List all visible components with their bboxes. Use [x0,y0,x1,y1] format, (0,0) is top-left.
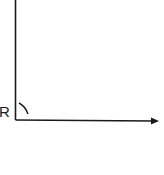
diagram-canvas [0,0,164,175]
angle-arc [19,103,28,114]
angle-diagram: R [0,0,164,175]
vertex-label: R [0,104,10,119]
arrowhead-icon [151,118,159,125]
horizontal-ray [16,120,154,121]
